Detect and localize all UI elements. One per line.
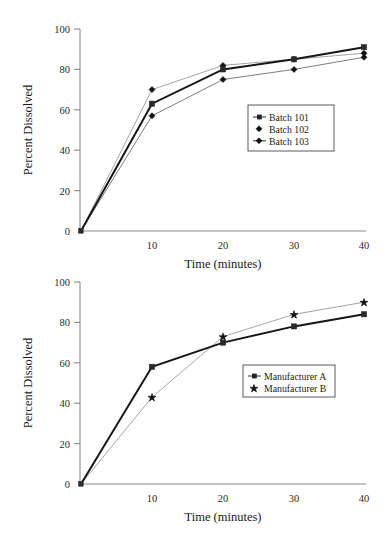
- series-markers-batch-103: [149, 50, 367, 92]
- top-legend-label-0: Batch 101: [269, 112, 309, 123]
- top-y-tick-label-60: 60: [60, 105, 71, 116]
- top-legend-label-1: Batch 102: [269, 124, 309, 135]
- bottom-y-tick-label-40: 40: [60, 398, 71, 409]
- top-y-tick-label-20: 20: [60, 186, 71, 197]
- bottom-y-tick-label-100: 100: [54, 277, 70, 288]
- top-y-axis-title: Percent Dissolved: [21, 84, 35, 175]
- top-y-tick-label-100: 100: [54, 24, 70, 35]
- bottom-x-axis-title: Time (minutes): [185, 510, 262, 524]
- top-y-tick-label-80: 80: [60, 64, 71, 75]
- bottom-chart-legend: Manufacturer A Manufacturer B: [243, 365, 335, 397]
- bottom-y-tick-label-60: 60: [60, 358, 71, 369]
- top-y-tick-label-0: 0: [65, 226, 70, 237]
- top-y-tick-label-40: 40: [60, 145, 71, 156]
- top-x-tick-label-10: 10: [147, 240, 158, 251]
- top-x-tick-label-30: 30: [289, 240, 300, 251]
- bottom-x-tick-label-30: 30: [289, 493, 300, 504]
- bottom-x-tick-label-10: 10: [147, 493, 158, 504]
- bottom-x-tick-label-20: 20: [218, 493, 229, 504]
- bottom-chart-svg: 100 80 60 40 20 0 10 20 30 40 Percent Di…: [0, 272, 383, 551]
- bottom-legend-label-1: Manufacturer B: [264, 383, 327, 394]
- dissolution-chart-manufacturers: 100 80 60 40 20 0 10 20 30 40 Percent Di…: [0, 272, 383, 551]
- bottom-y-tick-label-20: 20: [60, 439, 71, 450]
- bottom-x-tick-label-40: 40: [359, 493, 370, 504]
- top-chart-legend: Batch 101 Batch 102 Batch 103: [248, 105, 334, 151]
- bottom-y-tick-label-0: 0: [65, 479, 70, 490]
- top-chart-svg: 100 80 60 40 20 0 10 20 30 40 Percent Di…: [0, 0, 383, 272]
- bottom-y-tick-label-80: 80: [60, 317, 71, 328]
- bottom-y-axis-title: Percent Dissolved: [21, 337, 35, 428]
- top-x-tick-label-20: 20: [218, 240, 229, 251]
- top-legend-label-2: Batch 103: [269, 136, 309, 147]
- top-x-axis-title: Time (minutes): [185, 257, 262, 271]
- top-x-tick-label-40: 40: [359, 240, 370, 251]
- bottom-legend-label-0: Manufacturer A: [264, 371, 326, 382]
- dissolution-chart-batches: 100 80 60 40 20 0 10 20 30 40 Percent Di…: [0, 0, 383, 272]
